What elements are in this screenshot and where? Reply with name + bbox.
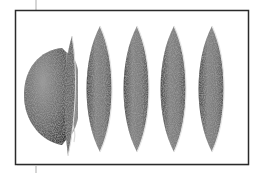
illustration [0,0,266,173]
